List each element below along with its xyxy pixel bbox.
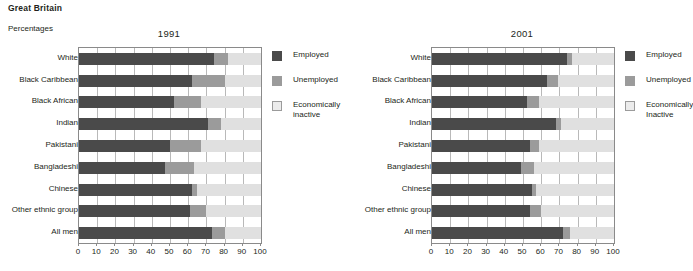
legend-swatch-employed-icon — [625, 51, 635, 61]
category-label: Other ethnic group — [0, 204, 78, 216]
category-label: Indian — [0, 117, 78, 129]
bar-segment-inactive — [206, 205, 261, 217]
bar-segment-employed — [79, 96, 174, 108]
axis-tick — [96, 243, 97, 246]
bar-segment-unemployed — [563, 227, 570, 239]
axis-tick — [224, 243, 225, 246]
bar-segment-unemployed — [212, 227, 225, 239]
category-label: Bangladeshi — [0, 161, 78, 173]
axis-tick — [169, 243, 170, 246]
bar-segment-inactive — [197, 184, 261, 196]
bar-segment-inactive — [536, 184, 614, 196]
bar-segment-unemployed — [170, 140, 201, 152]
category-label: Pakistani — [271, 139, 431, 151]
category-label: All men — [0, 226, 78, 238]
bar-row — [79, 140, 261, 152]
bar-segment-inactive — [225, 227, 261, 239]
bar-segment-inactive — [561, 118, 614, 130]
bar-segment-employed — [432, 227, 563, 239]
axis-tick-label: 90 — [590, 247, 599, 256]
axis-tick-label: 30 — [128, 247, 137, 256]
bar-segment-employed — [432, 162, 521, 174]
bar-segment-employed — [79, 205, 190, 217]
axis-tick — [467, 243, 468, 246]
bar-row — [432, 96, 614, 108]
axis-tick — [114, 243, 115, 246]
legend-2001: Employed Unemployed Economically Inactiv… — [625, 50, 693, 133]
axis-tick-label: 100 — [606, 247, 619, 256]
bar-rows-2001 — [432, 48, 614, 244]
bar-segment-inactive — [534, 162, 614, 174]
bar-segment-unemployed — [208, 118, 221, 130]
bar-row — [432, 53, 614, 65]
bar-segment-employed — [79, 162, 165, 174]
bar-segment-employed — [432, 205, 530, 217]
axis-tick-label: 60 — [536, 247, 545, 256]
category-label: Black African — [271, 95, 431, 107]
bar-row — [432, 140, 614, 152]
plot-area-1991 — [78, 47, 262, 244]
bar-row — [79, 162, 261, 174]
axis-tick — [558, 243, 559, 246]
bar-row — [432, 205, 614, 217]
panel-title-2001: 2001 — [431, 28, 613, 39]
axis-tick — [504, 243, 505, 246]
category-label: Black Caribbean — [0, 74, 78, 86]
bar-row — [432, 184, 614, 196]
category-label: Bangladeshi — [271, 161, 431, 173]
bar-segment-unemployed — [530, 205, 541, 217]
axis-tick-label: 40 — [499, 247, 508, 256]
axis-tick — [595, 243, 596, 246]
bar-segment-unemployed — [547, 75, 558, 87]
axis-tick-label: 90 — [237, 247, 246, 256]
bar-segment-employed — [79, 227, 212, 239]
bar-segment-inactive — [570, 227, 614, 239]
bar-segment-inactive — [558, 75, 614, 87]
bar-segment-unemployed — [214, 53, 229, 65]
axis-tick-label: 60 — [183, 247, 192, 256]
legend-item-unemployed[interactable]: Unemployed — [625, 75, 693, 86]
bar-segment-inactive — [221, 118, 261, 130]
legend-swatch-unemployed-icon — [625, 76, 635, 86]
bar-segment-employed — [79, 118, 208, 130]
axis-tick — [577, 243, 578, 246]
bar-segment-unemployed — [190, 205, 206, 217]
bar-segment-inactive — [572, 53, 614, 65]
panel-title-1991: 1991 — [78, 28, 260, 39]
legend-label-employed: Employed — [646, 50, 682, 60]
axis-tick-label: 50 — [518, 247, 527, 256]
axis-tick — [449, 243, 450, 246]
axis-tick-label: 40 — [146, 247, 155, 256]
category-label: Other ethnic group — [271, 204, 431, 216]
bar-segment-employed — [432, 75, 547, 87]
legend-label-inactive: Economically Inactive — [646, 100, 693, 119]
legend-item-employed[interactable]: Employed — [625, 50, 693, 61]
category-label: Black African — [0, 95, 78, 107]
axis-tick — [205, 243, 206, 246]
category-label: Chinese — [271, 183, 431, 195]
axis-tick-label: 0 — [429, 247, 433, 256]
bar-row — [432, 162, 614, 174]
axis-tick-label: 0 — [76, 247, 80, 256]
axis-tick — [522, 243, 523, 246]
bar-segment-inactive — [228, 53, 261, 65]
bar-segment-employed — [79, 75, 192, 87]
axis-tick-label: 70 — [201, 247, 210, 256]
legend-item-inactive[interactable]: Economically Inactive — [625, 100, 693, 119]
panel-2001: 2001 0102030405060708090100 Employed Une… — [345, 28, 690, 271]
axis-tick — [486, 243, 487, 246]
bar-segment-unemployed — [165, 162, 194, 174]
bar-segment-employed — [79, 184, 192, 196]
bar-segment-unemployed — [192, 75, 225, 87]
bar-segment-unemployed — [174, 96, 201, 108]
bar-segment-inactive — [194, 162, 261, 174]
bar-segment-inactive — [201, 140, 261, 152]
bar-rows-1991 — [79, 48, 261, 244]
bar-segment-unemployed — [530, 140, 539, 152]
bar-segment-employed — [432, 184, 532, 196]
axis-tick — [151, 243, 152, 246]
axis-tick-label: 30 — [481, 247, 490, 256]
bar-segment-inactive — [201, 96, 261, 108]
axis-tick-label: 80 — [219, 247, 228, 256]
category-label: Pakistani — [0, 139, 78, 151]
